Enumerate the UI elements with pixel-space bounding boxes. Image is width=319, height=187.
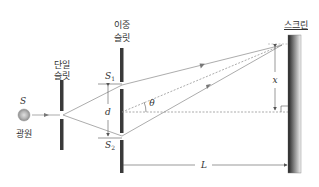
distance-label: L: [201, 160, 207, 170]
screen: [288, 35, 301, 173]
double-slit-middle-bar: [120, 89, 124, 133]
single-slit-label-2: 슬릿: [54, 71, 70, 81]
source-label: 광원: [16, 129, 32, 139]
single-slit-label-1: 단일: [54, 60, 70, 70]
angle-label: θ: [149, 98, 154, 108]
double-slit-bottom-bar: [120, 140, 124, 173]
ray-arrow-icon: [206, 84, 211, 89]
slit1-label: S1: [105, 71, 115, 84]
screen-label: 스크린: [284, 20, 308, 30]
angle-arc: [144, 102, 146, 112]
double-slit-label-2: 슬릿: [114, 33, 130, 43]
ray-arrow-icon: [200, 62, 206, 68]
double-slit: [120, 48, 124, 173]
light-source: [18, 109, 60, 121]
separation-label: d: [105, 107, 111, 117]
double-slit-diagram: [0, 0, 319, 187]
double-slit-top-bar: [120, 48, 124, 82]
diverging-rays: [63, 85, 122, 136]
source-symbol: S: [20, 96, 26, 106]
ray-arrow-icon: [44, 113, 49, 117]
single-slit-bottom-bar: [60, 119, 64, 150]
double-slit-label-1: 이중: [114, 20, 130, 30]
source-circle-icon: [18, 109, 30, 121]
slit2-label: S2: [105, 140, 115, 153]
single-slit: [60, 80, 64, 150]
interference-rays: [122, 44, 288, 136]
single-slit-top-bar: [60, 80, 64, 111]
position-label: x: [272, 75, 277, 85]
